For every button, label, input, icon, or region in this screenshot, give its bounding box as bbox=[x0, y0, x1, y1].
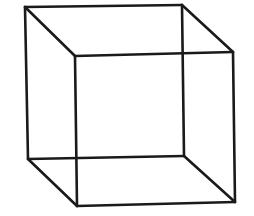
top-left-connector bbox=[25, 7, 75, 56]
front-face bbox=[75, 52, 235, 206]
bottom-right-connector bbox=[184, 156, 235, 202]
bottom-left-connector bbox=[28, 159, 77, 206]
top-right-connector bbox=[182, 5, 233, 52]
back-top-edge bbox=[25, 5, 182, 7]
back-face bbox=[25, 5, 184, 159]
necker-cube-diagram bbox=[0, 0, 254, 216]
connecting-edges bbox=[25, 5, 235, 206]
front-left-edge bbox=[75, 56, 77, 206]
front-right-edge bbox=[233, 52, 235, 202]
front-top-edge bbox=[75, 52, 233, 56]
back-bottom-edge bbox=[28, 156, 184, 159]
front-bottom-edge bbox=[77, 202, 235, 206]
back-left-edge bbox=[25, 7, 28, 159]
back-right-edge bbox=[182, 5, 184, 156]
